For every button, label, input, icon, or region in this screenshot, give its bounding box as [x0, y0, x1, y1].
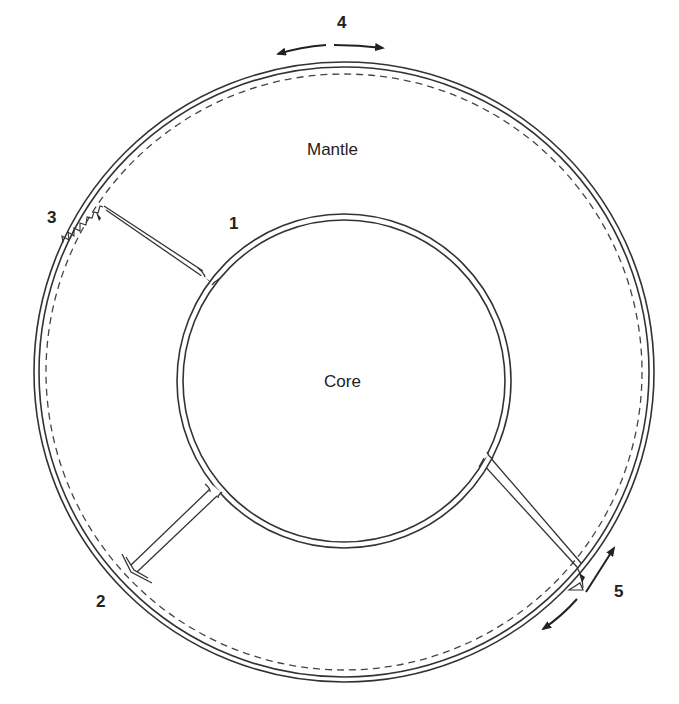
marker-2-label: 2 — [96, 592, 105, 611]
plume-lower-right — [482, 456, 581, 567]
marker-3-label: 3 — [47, 208, 56, 227]
earth-diagram: Mantle Core 1 2 3 4 5 — [0, 0, 679, 704]
volcano-chain-icon — [62, 206, 103, 243]
plume-head-3 — [96, 212, 101, 221]
diverging-arrows-icon — [278, 45, 383, 54]
plume-lower-left — [131, 489, 218, 572]
marker-5-label: 5 — [614, 582, 623, 601]
marker-1-label: 1 — [229, 214, 238, 233]
plume-head-5-fill — [579, 573, 585, 583]
core-label: Core — [324, 372, 361, 391]
mantle-label: Mantle — [307, 140, 358, 159]
plume-upper-left — [104, 206, 209, 281]
marker-4-label: 4 — [337, 13, 347, 32]
